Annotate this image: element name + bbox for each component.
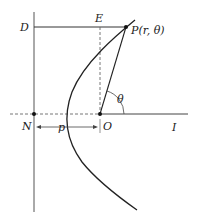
label-p-distance: p bbox=[58, 121, 65, 134]
label-o: O bbox=[103, 120, 112, 133]
arrowhead-left bbox=[36, 125, 41, 129]
label-d: D bbox=[19, 21, 29, 34]
arrowhead-right bbox=[93, 125, 98, 129]
label-p-coords: P(r, θ) bbox=[130, 24, 165, 37]
conic-diagram: D E P(r, θ) θ N O I p bbox=[0, 0, 200, 224]
conic-curve bbox=[67, 20, 137, 210]
point-p bbox=[124, 25, 128, 29]
label-e: E bbox=[94, 12, 103, 25]
point-o bbox=[98, 112, 102, 116]
label-i: I bbox=[171, 121, 177, 134]
label-n: N bbox=[21, 120, 32, 133]
label-theta: θ bbox=[117, 93, 124, 106]
point-n bbox=[32, 112, 36, 116]
